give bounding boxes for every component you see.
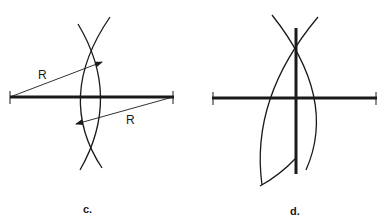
arc-from-left-endpoint bbox=[272, 15, 316, 170]
panel-d bbox=[212, 15, 377, 186]
arc-from-right-endpoint bbox=[260, 17, 318, 185]
arc-tail-bottom bbox=[260, 158, 296, 186]
construction-diagram bbox=[0, 0, 385, 218]
radius-label-upper: R bbox=[38, 68, 47, 82]
panel-d-label: d. bbox=[290, 205, 300, 217]
radius-label-lower: R bbox=[126, 113, 135, 127]
panel-c-label: c. bbox=[83, 203, 92, 215]
radius-line-upper bbox=[10, 62, 102, 97]
arc-from-right-endpoint bbox=[80, 17, 110, 168]
panel-c bbox=[10, 17, 174, 170]
radius-line-lower bbox=[76, 97, 173, 124]
